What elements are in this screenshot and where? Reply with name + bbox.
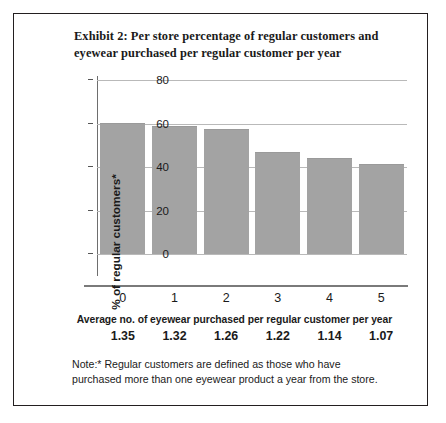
chart-title: Exhibit 2: Per store percentage of regul…: [74, 28, 414, 62]
secondary-value-0: 1.35: [111, 329, 135, 343]
gridline-0: [97, 254, 407, 255]
y-tick-20: 20: [156, 205, 169, 217]
y-tickmark-80: [88, 79, 93, 80]
bar-3: [255, 152, 300, 254]
y-tick-0: 0: [163, 248, 169, 260]
y-tick-40: 40: [156, 161, 169, 173]
secondary-value-2: 1.26: [214, 329, 238, 343]
y-tick-60: 60: [156, 118, 169, 130]
x-tick-label-2: 2: [223, 291, 230, 305]
x-axis-line: [84, 285, 408, 287]
secondary-value-1: 1.32: [162, 329, 186, 343]
y-tick-80: 80: [156, 74, 169, 86]
footnote: Note:* Regular customers are defined as …: [72, 357, 392, 386]
secondary-value-3: 1.22: [266, 329, 290, 343]
bar-5: [359, 164, 404, 254]
y-tickmark-0: [88, 253, 93, 254]
y-tickmark-40: [88, 166, 93, 167]
secondary-value-5: 1.07: [369, 329, 393, 343]
x-tick-labels: 012345: [97, 291, 407, 309]
secondary-series-caption: Average no. of eyewear purchased per reg…: [62, 314, 407, 325]
x-tick-label-5: 5: [378, 291, 385, 305]
y-tickmark-20: [88, 210, 93, 211]
exhibit-figure: Exhibit 2: Per store percentage of regul…: [13, 13, 428, 406]
x-tick-label-3: 3: [274, 291, 281, 305]
y-tickmark-60: [88, 123, 93, 124]
secondary-value-4: 1.14: [317, 329, 341, 343]
x-tick-label-0: 0: [119, 291, 126, 305]
bar-4: [307, 158, 352, 254]
plot-area: 80 60 40 20 0 % of regular customers*: [97, 80, 407, 254]
secondary-series-values: 1.351.321.261.221.141.07: [97, 329, 407, 345]
bar-2: [204, 129, 249, 254]
y-tick-labels: 80 60 40 20 0: [137, 80, 169, 254]
x-tick-label-4: 4: [326, 291, 333, 305]
x-tick-label-1: 1: [171, 291, 178, 305]
